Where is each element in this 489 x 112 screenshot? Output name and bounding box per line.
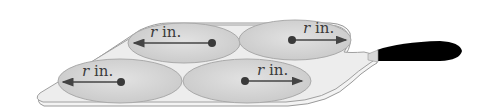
svg-text:r in.: r in. xyxy=(82,62,113,80)
pancake-bottom-right: r in. xyxy=(183,59,311,103)
pan-diagram: r in. r in. r in. r in. xyxy=(0,0,489,112)
svg-text:r in.: r in. xyxy=(257,61,288,79)
handle-neck xyxy=(368,50,378,62)
svg-text:r in.: r in. xyxy=(150,23,181,41)
pancake-bottom-left: r in. xyxy=(58,59,182,103)
svg-text:r in.: r in. xyxy=(303,19,334,37)
pancake-top-left: r in. xyxy=(128,23,240,63)
pan-handle-icon xyxy=(377,41,462,61)
